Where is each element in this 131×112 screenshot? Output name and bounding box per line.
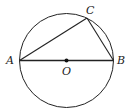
label-o: O [62, 65, 71, 78]
label-a: A [5, 54, 14, 67]
geometry-diagram: A B C O [0, 0, 131, 112]
label-c: C [86, 4, 95, 17]
label-b: B [116, 54, 125, 67]
segment-bc [87, 18, 114, 61]
diagram-svg: A B C O [0, 0, 131, 112]
segment-ac [20, 18, 88, 61]
center-point-o [65, 59, 69, 63]
